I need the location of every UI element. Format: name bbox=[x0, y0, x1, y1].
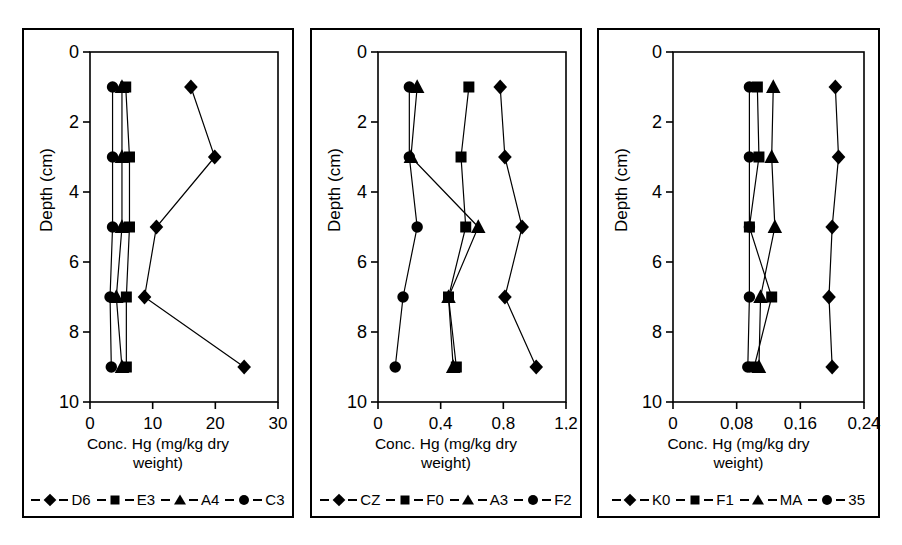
legend-circle-icon bbox=[237, 493, 250, 506]
data-point-MA bbox=[766, 79, 781, 93]
legend-line-icon bbox=[31, 499, 40, 501]
y-tick-label: 6 bbox=[652, 252, 662, 272]
data-point-F0 bbox=[460, 222, 471, 233]
legend-entry-E3: E3 bbox=[97, 491, 155, 508]
legend-label: CZ bbox=[360, 491, 380, 508]
x-tick-label: 0,16 bbox=[784, 414, 817, 430]
legend-line-icon bbox=[97, 499, 106, 501]
x-tick-label: 30 bbox=[269, 414, 288, 430]
x-tick-label: 0 bbox=[373, 414, 382, 430]
legend-line-icon bbox=[704, 499, 713, 501]
legend-entry-F1: F1 bbox=[676, 491, 734, 508]
plot-svg-holder-1: 02468100102030 bbox=[24, 30, 296, 434]
legend-entry-F0: F0 bbox=[386, 491, 444, 508]
y-tick-label: 10 bbox=[642, 392, 662, 412]
data-point-MA bbox=[753, 289, 768, 303]
legend-entry-D6: D6 bbox=[31, 491, 90, 508]
data-point-K0 bbox=[829, 80, 843, 95]
legend-line-icon bbox=[189, 499, 198, 501]
legend-line-icon bbox=[253, 499, 262, 501]
x-axis-label-1-line1: Conc. Hg (mg/kg dry bbox=[32, 434, 284, 453]
x-tick-label: 0 bbox=[85, 414, 94, 430]
data-point-K0 bbox=[832, 150, 846, 165]
legend-entry-35: 35 bbox=[808, 491, 865, 508]
data-point-F0 bbox=[456, 152, 467, 163]
data-point-C3 bbox=[107, 151, 118, 162]
y-tick-label: 4 bbox=[357, 182, 367, 202]
plot-area-2: Depth (cm) 024681000,40,81,2 bbox=[312, 30, 580, 422]
legend-line-icon bbox=[612, 499, 621, 501]
legend-label: A3 bbox=[490, 491, 508, 508]
x-axis-label-2-line2: weight) bbox=[320, 453, 572, 472]
x-axis-label-2: Conc. Hg (mg/kg dry weight) bbox=[320, 434, 572, 472]
x-tick-label: 0,08 bbox=[720, 414, 753, 430]
data-point-D6 bbox=[184, 80, 198, 95]
data-point-F0 bbox=[463, 82, 474, 93]
data-point-F2 bbox=[404, 151, 415, 162]
data-point-CZ bbox=[493, 80, 507, 95]
data-point-K0 bbox=[825, 360, 839, 375]
data-point-CZ bbox=[529, 360, 543, 375]
legend-triangle-icon bbox=[462, 493, 475, 506]
legend-line-icon bbox=[478, 499, 487, 501]
legend-3: K0F1MA35 bbox=[603, 491, 874, 508]
legend-line-icon bbox=[386, 499, 395, 501]
plot-svg-holder-2: 024681000,40,81,2 bbox=[312, 30, 584, 434]
legend-line-icon bbox=[161, 499, 170, 501]
legend-line-icon bbox=[640, 499, 649, 501]
data-point-35 bbox=[744, 221, 755, 232]
data-point-K0 bbox=[825, 220, 839, 235]
y-tick-label: 6 bbox=[69, 252, 79, 272]
data-point-C3 bbox=[107, 81, 118, 92]
x-tick-label: 20 bbox=[206, 414, 225, 430]
data-point-F2 bbox=[397, 291, 408, 302]
legend-line-icon bbox=[450, 499, 459, 501]
y-tick-label: 8 bbox=[652, 322, 662, 342]
legend-square-icon bbox=[398, 493, 411, 506]
y-tick-label: 10 bbox=[59, 392, 79, 412]
legend-label: C3 bbox=[265, 491, 284, 508]
legend-label: D6 bbox=[71, 491, 90, 508]
legend-line-icon bbox=[320, 499, 329, 501]
data-point-F1 bbox=[766, 292, 777, 303]
legend-2: CZF0A3F2 bbox=[316, 491, 576, 508]
plot-svg-holder-3: 024681000,080,160,24 bbox=[599, 30, 882, 434]
legend-circle-icon bbox=[820, 493, 833, 506]
legend-line-icon bbox=[542, 499, 551, 501]
legend-label: F0 bbox=[426, 491, 444, 508]
chart-panel-2: Depth (cm) 024681000,40,81,2 Conc. Hg (m… bbox=[310, 28, 582, 518]
legend-line-icon bbox=[808, 499, 817, 501]
legend-entry-A3: A3 bbox=[450, 491, 508, 508]
legend-diamond-icon bbox=[43, 493, 56, 506]
figure-mercury-depth-profiles: Depth (cm) 02468100102030 Conc. Hg (mg/k… bbox=[0, 0, 902, 545]
y-tick-label: 2 bbox=[357, 112, 367, 132]
legend-label: F1 bbox=[716, 491, 734, 508]
data-point-35 bbox=[744, 81, 755, 92]
x-axis-label-2-line1: Conc. Hg (mg/kg dry bbox=[320, 434, 572, 453]
legend-triangle-icon bbox=[752, 493, 765, 506]
data-point-F2 bbox=[411, 221, 422, 232]
y-tick-label: 2 bbox=[652, 112, 662, 132]
x-axis-label-1: Conc. Hg (mg/kg dry weight) bbox=[32, 434, 284, 472]
data-point-CZ bbox=[515, 220, 529, 235]
legend-entry-K0: K0 bbox=[612, 491, 670, 508]
data-point-D6 bbox=[237, 360, 251, 375]
data-point-E3 bbox=[121, 292, 132, 303]
legend-line-icon bbox=[836, 499, 845, 501]
data-point-F2 bbox=[390, 361, 401, 372]
data-point-CZ bbox=[498, 150, 512, 165]
x-axis-label-1-line2: weight) bbox=[32, 453, 284, 472]
x-axis-label-3: Conc. Hg (mg/kg dry weight) bbox=[607, 434, 870, 472]
y-tick-label: 0 bbox=[357, 42, 367, 62]
data-point-MA bbox=[768, 219, 783, 233]
x-tick-label: 0,4 bbox=[429, 414, 453, 430]
y-tick-label: 4 bbox=[69, 182, 79, 202]
legend-entry-CZ: CZ bbox=[320, 491, 380, 508]
data-point-MA bbox=[764, 149, 779, 163]
plot-area-3: Depth (cm) 024681000,080,160,24 bbox=[599, 30, 878, 422]
data-point-C3 bbox=[104, 291, 115, 302]
legend-label: K0 bbox=[652, 491, 670, 508]
y-tick-label: 0 bbox=[69, 42, 79, 62]
legend-entry-F2: F2 bbox=[514, 491, 572, 508]
y-tick-label: 8 bbox=[69, 322, 79, 342]
